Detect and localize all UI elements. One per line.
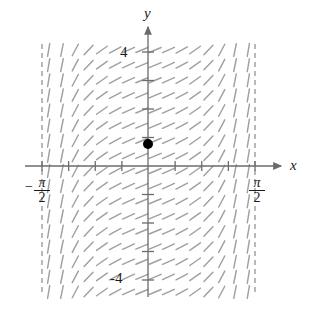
slope-segment — [84, 272, 93, 281]
slope-segment — [190, 228, 201, 235]
slope-segment — [176, 77, 187, 83]
slope-segment — [61, 74, 64, 87]
slope-segment — [123, 78, 135, 83]
slope-segment — [204, 181, 213, 190]
slope-segment — [48, 74, 50, 87]
slope-segment — [84, 60, 93, 69]
slope-segment — [190, 137, 201, 144]
slope-segment — [136, 184, 148, 189]
slope-segment — [190, 198, 201, 205]
slope-segment — [136, 93, 148, 98]
slope-segment — [149, 93, 161, 98]
slope-segment — [61, 180, 64, 193]
slope-segment — [219, 135, 225, 147]
slope-segment — [176, 259, 187, 265]
slope-segment — [123, 214, 135, 219]
slope-segment — [72, 59, 78, 70]
slope-segment — [234, 271, 237, 284]
slope-segment — [136, 168, 148, 173]
slope-segment — [234, 134, 237, 147]
slope-segment — [61, 210, 64, 223]
slope-segment — [247, 149, 249, 162]
slope-segment — [149, 214, 161, 219]
slope-segment — [136, 229, 148, 234]
slope-segment — [72, 286, 78, 298]
slope-segment — [136, 199, 148, 204]
slope-segment — [234, 225, 237, 238]
slope-segment — [149, 184, 161, 189]
slope-segment — [97, 228, 108, 235]
slope-segment — [176, 244, 187, 250]
slope-segment — [48, 210, 50, 223]
slope-segment — [247, 59, 249, 72]
slope-segment — [204, 166, 213, 175]
slope-segment — [149, 274, 161, 279]
slope-segment — [123, 153, 135, 158]
slope-segment — [136, 153, 148, 158]
slope-segment — [136, 214, 148, 219]
slope-segment — [219, 286, 225, 298]
slope-segment — [97, 61, 108, 68]
slope-segment — [84, 151, 93, 160]
slope-segment — [234, 286, 237, 299]
slope-segment — [204, 106, 213, 115]
x-axis-label: x — [290, 158, 297, 173]
slope-segment — [72, 256, 78, 268]
slope-segment — [136, 274, 148, 279]
slope-segment — [234, 59, 237, 72]
slope-segment — [84, 257, 93, 266]
slope-segment — [234, 44, 237, 57]
slope-segment — [204, 197, 213, 206]
slope-segment — [110, 107, 121, 113]
slope-segment — [190, 92, 201, 99]
slope-segment — [123, 274, 135, 279]
slope-segment — [123, 183, 135, 188]
slope-segment — [48, 134, 50, 147]
slope-segment — [123, 123, 135, 128]
slope-segment — [247, 255, 249, 268]
slope-segment — [204, 60, 213, 69]
slope-segment — [149, 153, 161, 158]
slope-segment — [48, 89, 50, 102]
y-axis-label: y — [144, 6, 151, 21]
slope-segment — [204, 257, 213, 266]
slope-segment — [234, 210, 237, 223]
slope-segment — [84, 76, 93, 85]
slope-segment — [219, 120, 225, 131]
slope-segment — [234, 180, 237, 193]
slope-segment — [84, 166, 93, 175]
slope-segment — [97, 92, 108, 99]
slope-segment — [61, 225, 64, 238]
slope-segment — [136, 289, 148, 294]
slope-segment — [61, 134, 64, 147]
slope-segment — [149, 229, 161, 234]
slope-segment — [48, 255, 50, 268]
slope-segment — [97, 122, 108, 129]
slope-segment — [234, 74, 237, 87]
slope-segment — [190, 243, 201, 250]
slope-segment — [123, 168, 135, 173]
slope-segment — [176, 198, 187, 204]
slope-segment — [72, 135, 78, 147]
slope-segment — [84, 136, 93, 145]
slope-segment — [149, 63, 161, 68]
plot-canvas — [0, 0, 318, 311]
slope-segment — [234, 240, 237, 253]
slope-segment — [234, 104, 237, 117]
slope-segment — [61, 150, 64, 163]
slope-segment — [97, 137, 108, 144]
slope-segment — [72, 150, 78, 161]
slope-segment — [247, 104, 249, 117]
slope-segment — [219, 75, 225, 87]
slope-segment — [84, 287, 93, 296]
slope-segment — [204, 227, 213, 236]
slope-segment — [48, 225, 50, 238]
slope-segment — [123, 199, 135, 204]
slope-segment — [48, 149, 50, 162]
slope-segment — [72, 105, 78, 117]
slope-segment — [48, 240, 50, 253]
slope-segment — [48, 44, 50, 57]
slope-segment — [84, 121, 93, 130]
slope-segment — [110, 92, 121, 98]
slope-segment — [61, 255, 64, 268]
